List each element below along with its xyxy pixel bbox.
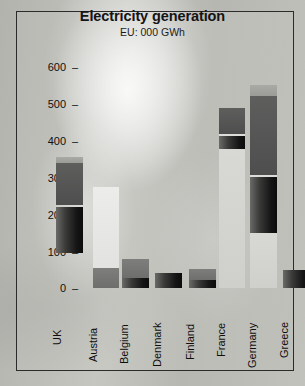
bar-denmark-segment-lower — [155, 273, 182, 288]
plot-area: 600 – 500 – 400 – 300 – 200 – 100 – 0 – — [0, 0, 305, 386]
bar-finland-segment-upper — [189, 269, 216, 280]
bar-uk-segment-lower — [56, 207, 83, 253]
bar-finland-segment-lower — [189, 280, 216, 288]
y-tick-400-label: 400 — [48, 135, 66, 147]
x-label-france: France — [216, 323, 227, 357]
x-label-greece: Greece — [279, 322, 290, 358]
y-tick-600: 600 – — [18, 61, 66, 73]
bar-germany-segment-cap — [250, 85, 277, 96]
bar-belgium-segment-lower — [122, 278, 149, 288]
x-label-uk: UK — [52, 330, 63, 345]
bar-uk-segment-base — [56, 253, 83, 288]
bar-germany[interactable] — [250, 85, 277, 288]
bar-greece-segment-lower — [283, 270, 305, 288]
bar-belgium[interactable] — [122, 259, 149, 288]
bar-france-segment-top — [219, 108, 245, 134]
bar-finland[interactable] — [189, 269, 216, 288]
bar-belgium-segment-upper — [122, 259, 149, 278]
bar-uk-segment-upper — [56, 163, 83, 205]
x-label-belgium: Belgium — [119, 324, 130, 364]
y-tick-600-dash: – — [70, 61, 78, 73]
y-tick-400: 400 – — [18, 135, 66, 147]
y-tick-600-label: 600 — [48, 61, 66, 73]
y-tick-400-dash: – — [70, 135, 78, 147]
bar-austria-segment-upper — [93, 187, 119, 268]
bar-germany-segment-lower — [250, 233, 277, 288]
bar-france-segment-upper — [219, 136, 245, 149]
bar-austria-segment-lower — [93, 268, 119, 288]
y-tick-500-label: 500 — [48, 98, 66, 110]
y-tick-500: 500 – — [18, 98, 66, 110]
bar-germany-segment-upper — [250, 96, 277, 175]
x-label-germany: Germany — [247, 323, 258, 368]
x-label-austria: Austria — [88, 328, 99, 362]
chart-subtitle: EU: 000 GWh — [0, 25, 305, 39]
chart-titles: Electricity generation EU: 000 GWh — [0, 8, 305, 39]
chart-title: Electricity generation — [0, 8, 305, 24]
bar-france[interactable] — [219, 108, 245, 288]
bar-austria[interactable] — [93, 187, 119, 288]
bar-greece[interactable] — [283, 270, 305, 288]
bar-germany-segment-mid — [250, 177, 277, 233]
y-tick-500-dash: – — [70, 98, 78, 110]
bar-uk[interactable] — [56, 157, 83, 288]
bar-france-segment-lower — [219, 149, 245, 288]
bar-denmark[interactable] — [155, 273, 182, 288]
chart-page: Electricity generation EU: 000 GWh 600 –… — [0, 0, 305, 386]
x-label-denmark: Denmark — [152, 322, 163, 367]
x-label-finland: Finland — [185, 324, 196, 360]
